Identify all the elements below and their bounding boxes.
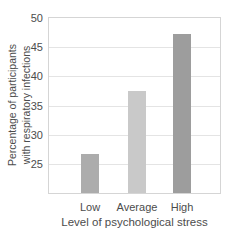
bar-low xyxy=(81,154,99,193)
x-tick-label-high: High xyxy=(147,201,217,214)
gridline-y-45 xyxy=(49,47,220,48)
x-axis-title: Level of psychological stress xyxy=(42,216,226,228)
bar-high xyxy=(173,34,191,193)
gridline-y-40 xyxy=(49,76,220,77)
y-tick-label-35: 35 xyxy=(0,100,43,112)
y-tick-label-30: 30 xyxy=(0,129,43,141)
y-tick-label-50: 50 xyxy=(0,12,43,24)
y-tick-label-25: 25 xyxy=(0,158,43,170)
y-tick-label-45: 45 xyxy=(0,41,43,53)
plot-area xyxy=(48,17,221,194)
bar-chart-figure: Percentage of participants with respirat… xyxy=(0,0,226,236)
y-tick-label-40: 40 xyxy=(0,70,43,82)
bar-average xyxy=(128,91,146,193)
